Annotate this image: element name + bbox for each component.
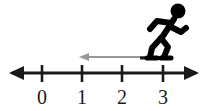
tick-label-2: 2 (117, 86, 127, 108)
number-line-figure: 0 1 2 3 (0, 0, 209, 111)
tick-label-1: 1 (77, 86, 87, 108)
tick-label-3: 3 (158, 86, 168, 108)
stick-figure-head (171, 4, 186, 19)
tick-label-0: 0 (37, 86, 47, 108)
number-line-illustration: 0 1 2 3 (0, 0, 209, 111)
